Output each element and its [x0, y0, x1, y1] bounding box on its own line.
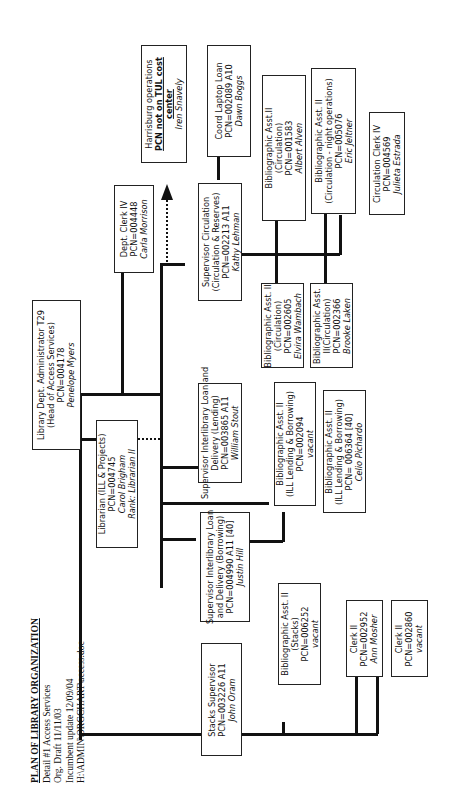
position-head-access-services[interactable]: Library Dept. Administrator T29 (Head of… [32, 300, 81, 450]
position-pcn: PCN=004990 A11 [40] [225, 510, 235, 624]
arrow-up-icon [161, 184, 173, 200]
position-subtitle: and Delivery (Borrowing) [215, 510, 225, 624]
position-subtitle: (Circulation - night operations) [324, 78, 334, 204]
position-pcn: PCN=003865 A11 [220, 367, 230, 499]
position-librarian-ill[interactable]: Librarian (ILL & Projects) PCN=004745 Ca… [96, 420, 138, 548]
connector-circ-clerk [339, 215, 342, 255]
position-dept-clerk[interactable]: Dept. Clerk IV PCN=004448 Carla Morrison [114, 185, 154, 273]
position-title: Bibliographic Asst. [312, 288, 322, 364]
position-supervisor-ill-borrowing[interactable]: Supervisor Interlibrary Loan and Deliver… [200, 512, 250, 622]
connector-harrisburg-dotted [166, 200, 168, 262]
position-ba-ill-2094[interactable]: Bibliographic Asst. II (ILL Lending & Bo… [274, 382, 316, 506]
incumbent-name: Ann Mosher [370, 611, 380, 666]
position-pcn: PCN=006252 [300, 592, 310, 675]
position-subtitle: (Head of Access Services) [47, 310, 57, 440]
connector-sup-borrow [161, 538, 196, 541]
position-ba-circulation-1583[interactable]: Bibliographic Asst.II (Circulation) PCN=… [262, 75, 306, 221]
position-ba-circulation-2366[interactable]: Bibliographic Asst. II(Circulation) PCN=… [310, 283, 353, 368]
position-pcn: PCN=004569 [382, 124, 392, 202]
position-pcn: PCN=002094 [295, 391, 305, 497]
position-pcn: PCN= 006364 [40] [345, 398, 355, 504]
position-pcn: PCN=003226 A11 [217, 663, 227, 737]
position-pcn: PCN=002860 [405, 611, 415, 666]
position-pcn: PCN=005076 [334, 78, 344, 204]
connector-clerk-2952 [355, 675, 358, 734]
incumbent-name: Carol Brigham [117, 434, 127, 535]
position-title: Circulation Clerk IV [372, 124, 382, 202]
position-pcn: PCN=004745 [107, 434, 117, 535]
position-pcn: PCN=002213 A11 [220, 193, 230, 292]
header-line: Detail #1 Access Services [42, 618, 54, 783]
position-title: Dept. Clerk IV [119, 199, 129, 259]
position-clerk-2952[interactable]: Clerk II PCN=002952 Ann Mosher [346, 600, 383, 677]
position-title: Clerk II [350, 611, 360, 666]
position-subtitle: (Circulation) [273, 284, 283, 367]
position-subtitle: Delivery (Lending) [210, 367, 220, 499]
position-ba-night-operations[interactable]: Bibliographic Asst. II (Circulation - ni… [311, 68, 356, 214]
incumbent-name: vacant [305, 391, 315, 497]
connector-ba-stacks [282, 722, 285, 734]
position-harrisburg[interactable]: Harrisburg operations PCN not on TUL cos… [141, 45, 187, 163]
position-subtitle: (Circulation) [274, 108, 284, 189]
position-title: Bibliographic Asst. II [263, 284, 273, 367]
incumbent-name: William Stout [230, 367, 240, 499]
header-line: H:\ADMIN\ORGCHART\access.doc [76, 618, 88, 783]
position-title: Library Dept. Administrator T29 [37, 310, 47, 440]
incumbent-name: Penelope Myers [67, 310, 77, 440]
incumbent-name: vacant [310, 592, 320, 675]
position-title: Bibliographic Asst. II [275, 391, 285, 497]
connector-coord-laptop [217, 155, 220, 180]
connector-sup-circ [161, 263, 185, 266]
incumbent-name: vacant [415, 611, 425, 666]
position-supervisor-ill-lending[interactable]: Supervisor Interlibrary Loan and Deliver… [198, 383, 242, 483]
header-line: Org. Draft 11/11/03 [53, 618, 65, 783]
incumbent-name: Brooke Laken [342, 288, 352, 364]
position-ba-circulation-2605[interactable]: Bibliographic Asst. II (Circulation) PCN… [261, 283, 304, 368]
position-supervisor-circulation[interactable]: Supervisor Circulation (Circulation & Re… [198, 183, 242, 301]
position-title: Harrisburg operations [144, 57, 154, 151]
incumbent-name: Kathy Lehman [230, 193, 240, 292]
connector-clerk-2860 [376, 675, 379, 734]
connector-librarian-dotted [138, 438, 160, 440]
position-subtitle: (ILL Lending & Borrowing) [285, 391, 295, 497]
connector-ba-1583 [275, 220, 278, 254]
position-coord-laptop-loan[interactable]: Coord Laptop Loan PCN=002089 A10 Dawn Bo… [207, 45, 251, 157]
position-subtitle: II(Circulation) [322, 288, 332, 364]
position-title: Supervisor Interlibrary Loan [205, 510, 215, 624]
incumbent-name: Justin Hill [235, 510, 245, 624]
chart-title: PLAN OF LIBRARY ORGANIZATION [30, 618, 42, 783]
position-title: Bibliographic Asst. II [325, 398, 335, 504]
position-pcn: PCN=002366 [332, 288, 342, 364]
incumbent-name: Celio Pichardo [355, 398, 365, 504]
position-stacks-supervisor[interactable]: Stacks Supervisor PCN=003226 A11 John Or… [201, 643, 242, 756]
position-ba-ill-6364[interactable]: Bibliographic Asst. II (ILL Lending & Bo… [323, 390, 366, 513]
position-pcn: PCN=001583 [284, 108, 294, 189]
position-title: Bibliographic Asst. II [314, 78, 324, 204]
incumbent-rank: Rank: Librarian II [127, 434, 137, 535]
position-title: Supervisor Circulation [200, 193, 210, 292]
position-subtitle: (Circulation & Reserves) [210, 193, 220, 292]
position-pcn: PCN=004178 [57, 310, 67, 440]
position-circulation-clerk[interactable]: Circulation Clerk IV PCN=004569 Julieta … [369, 112, 405, 215]
header-line: Incumbent update 12/09/04 [65, 618, 77, 783]
position-ba-stacks[interactable]: Bibliographic Asst. II (Stacks) PCN=0062… [278, 583, 321, 685]
incumbent-name: Julieta Estrada [392, 124, 402, 202]
position-title: Clerk II [395, 611, 405, 666]
position-pcn: PCN=002952 [360, 611, 370, 666]
position-subtitle: (ILL Lending & Borrowing) [335, 398, 345, 504]
connector-lend-team [161, 502, 266, 505]
incumbent-name: Albert Alven [294, 108, 304, 189]
position-title: Bibliographic Asst. II [280, 592, 290, 675]
incumbent-name: Eric Jeltner [344, 78, 354, 204]
incumbent-name: Elvira Wambach [293, 284, 303, 367]
connector-ba-2605 [275, 254, 278, 284]
position-pcn: PCN=004448 [129, 199, 139, 259]
incumbent-name: Carla Morrison [139, 199, 149, 259]
incumbent-name: John Oram [227, 663, 237, 737]
connector-ill-team [282, 512, 285, 542]
position-pcn: PCN=002089 A10 [224, 62, 234, 139]
incumbent-name: Iren Snavely [174, 57, 184, 151]
position-title: Bibliographic Asst.II [264, 108, 274, 189]
position-clerk-2860[interactable]: Clerk II PCN=002860 vacant [391, 600, 428, 677]
connector-ba-night [324, 213, 327, 254]
